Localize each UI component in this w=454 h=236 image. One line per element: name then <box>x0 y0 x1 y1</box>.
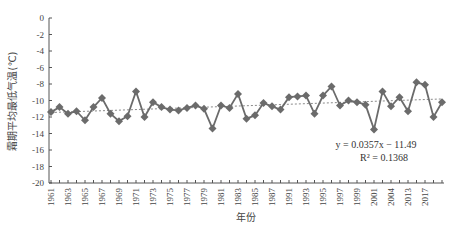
data-point-diamond-icon <box>124 112 132 120</box>
x-tick-label: 1999 <box>352 188 362 207</box>
y-tick-label: 0 <box>40 13 45 23</box>
data-point-diamond-icon <box>421 81 429 89</box>
x-tick-label: 1979 <box>199 188 209 207</box>
x-tick-label: 1977 <box>182 188 192 207</box>
data-point-diamond-icon <box>379 87 387 95</box>
data-point-diamond-icon <box>158 103 166 111</box>
x-tick-label: 1971 <box>131 188 141 206</box>
data-point-diamond-icon <box>370 125 378 133</box>
x-tick-label: 1995 <box>318 188 328 207</box>
x-tick-label: 2017 <box>420 188 430 207</box>
data-point-diamond-icon <box>217 101 225 109</box>
data-point-diamond-icon <box>200 105 208 113</box>
data-point-diamond-icon <box>234 90 242 98</box>
y-tick-label: -10 <box>32 96 44 106</box>
data-point-diamond-icon <box>183 104 191 112</box>
x-tick-label: 1991 <box>284 188 294 206</box>
data-point-diamond-icon <box>404 107 412 115</box>
x-tick-label: 1965 <box>80 188 90 207</box>
line-chart: 霜期平均最低气温(℃) 0-2-4-6-8-10-12-14-16-18-20 … <box>0 0 454 236</box>
equation-text: y = 0.0357x − 11.49 <box>336 139 417 150</box>
x-axis-title: 年份 <box>236 211 256 223</box>
x-tick-label: 2013 <box>403 188 413 207</box>
data-point-diamond-icon <box>413 78 421 86</box>
data-point-diamond-icon <box>268 102 276 110</box>
x-tick-label: 2001 <box>369 188 379 206</box>
y-tick-label: -12 <box>32 112 44 122</box>
data-point-diamond-icon <box>294 92 302 100</box>
x-tick-label: 1975 <box>165 188 175 207</box>
data-point-diamond-icon <box>430 113 438 121</box>
x-tick-label: 1983 <box>233 188 243 207</box>
svg-text:年份: 年份 <box>236 211 256 223</box>
data-point-diamond-icon <box>353 98 361 106</box>
data-point-diamond-icon <box>302 92 310 100</box>
data-point-diamond-icon <box>192 101 200 109</box>
x-tick-label: 1981 <box>216 188 226 206</box>
y-tick-label: -14 <box>32 129 44 139</box>
y-axis: 0-2-4-6-8-10-12-14-16-18-20 <box>32 13 52 188</box>
x-axis: 1961196319651967196919711973197519771979… <box>46 180 444 206</box>
x-tick-label: 1967 <box>97 188 107 207</box>
data-series <box>47 78 446 133</box>
y-axis-title: 霜期平均最低气温(℃) <box>6 51 18 150</box>
y-tick-label: -4 <box>37 46 45 56</box>
data-point-diamond-icon <box>226 104 234 112</box>
svg-text:霜期平均最低气温(℃): 霜期平均最低气温(℃) <box>6 51 18 150</box>
r-squared-text: R² = 0.1368 <box>360 152 408 163</box>
trend-equation: y = 0.0357x − 11.49 R² = 0.1368 <box>336 139 417 163</box>
x-tick-label: 1963 <box>63 188 73 207</box>
data-point-diamond-icon <box>47 108 55 116</box>
data-point-diamond-icon <box>175 106 183 114</box>
x-tick-label: 1993 <box>301 188 311 207</box>
data-point-diamond-icon <box>149 98 157 106</box>
x-tick-label: 1987 <box>267 188 277 207</box>
data-point-diamond-icon <box>209 125 217 133</box>
x-tick-label: 1961 <box>46 188 56 206</box>
x-tick-label: 2004 <box>386 188 396 207</box>
data-point-diamond-icon <box>132 87 140 95</box>
x-tick-label: 1973 <box>148 188 158 207</box>
data-point-diamond-icon <box>166 106 174 114</box>
y-tick-label: -18 <box>32 162 44 172</box>
data-point-diamond-icon <box>336 101 344 109</box>
y-tick-label: -6 <box>37 63 45 73</box>
x-tick-label: 1997 <box>335 188 345 207</box>
data-point-diamond-icon <box>311 110 319 118</box>
data-point-diamond-icon <box>345 97 353 105</box>
y-tick-label: -2 <box>37 30 45 40</box>
data-point-diamond-icon <box>243 115 251 123</box>
y-tick-label: -16 <box>32 145 44 155</box>
x-tick-label: 1985 <box>250 188 260 207</box>
y-tick-label: -8 <box>37 79 45 89</box>
data-point-diamond-icon <box>141 113 149 121</box>
y-tick-label: -20 <box>32 178 44 188</box>
x-tick-label: 1969 <box>114 188 124 207</box>
